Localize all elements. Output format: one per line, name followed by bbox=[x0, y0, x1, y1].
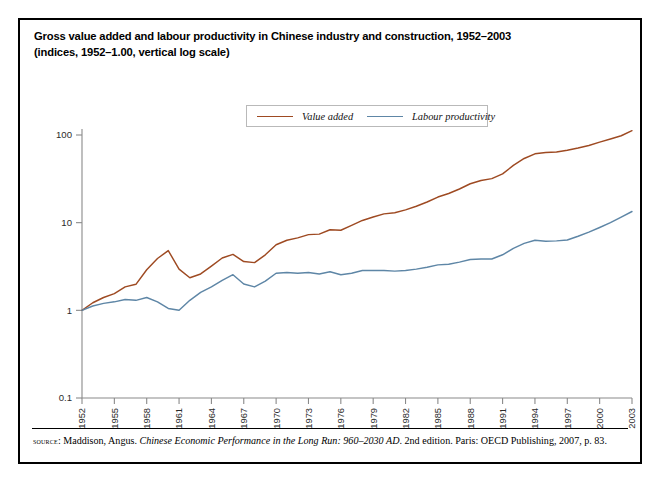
y-tick-label: 100 bbox=[56, 129, 72, 140]
x-tick-label: 1958 bbox=[142, 408, 152, 429]
series-line-labour-productivity bbox=[82, 212, 632, 311]
x-tick-label: 1967 bbox=[239, 408, 249, 429]
y-axis-ticks: 1001010.1 bbox=[56, 129, 82, 403]
x-tick-label: 1979 bbox=[369, 408, 379, 429]
x-tick-label: 1952 bbox=[77, 408, 87, 429]
chart-plot-area: 1001010.1 195219551958196119641967197019… bbox=[20, 20, 644, 466]
axis-spine bbox=[82, 129, 632, 398]
series-line-value-added bbox=[82, 131, 632, 311]
y-tick-label: 1 bbox=[67, 305, 72, 316]
source-work-title: Chinese Economic Performance in the Long… bbox=[139, 435, 399, 446]
source-note: source: Maddison, Angus. Chinese Economi… bbox=[33, 434, 625, 448]
y-tick-label: 10 bbox=[61, 217, 72, 228]
x-tick-label: 2003 bbox=[627, 408, 637, 429]
x-tick-label: 1991 bbox=[498, 408, 508, 429]
x-tick-label: 1994 bbox=[530, 408, 540, 429]
x-tick-label: 1961 bbox=[174, 408, 184, 429]
x-axis-ticks: 1952195519581961196419671970197319761979… bbox=[77, 398, 637, 429]
x-tick-label: 1988 bbox=[466, 408, 476, 429]
source-divider bbox=[32, 428, 628, 429]
x-tick-label: 1982 bbox=[401, 408, 411, 429]
x-tick-label: 2000 bbox=[595, 408, 605, 429]
line-chart-svg: 1001010.1 195219551958196119641967197019… bbox=[20, 20, 644, 466]
x-tick-label: 1973 bbox=[304, 408, 314, 429]
chart-series-group bbox=[82, 131, 632, 311]
x-tick-label: 1997 bbox=[563, 408, 573, 429]
source-kicker: source bbox=[33, 436, 58, 446]
figure-frame: Gross value added and labour productivit… bbox=[18, 18, 642, 464]
x-tick-label: 1964 bbox=[207, 408, 217, 429]
chart-axes bbox=[82, 129, 632, 398]
x-tick-label: 1970 bbox=[272, 408, 282, 429]
y-tick-label: 0.1 bbox=[59, 392, 72, 403]
x-tick-label: 1985 bbox=[433, 408, 443, 429]
x-tick-label: 1955 bbox=[110, 408, 120, 429]
x-tick-label: 1976 bbox=[336, 408, 346, 429]
source-text-after-title: . 2nd edition. Paris: OECD Publishing, 2… bbox=[399, 435, 607, 446]
source-text-before-title: : Maddison, Angus. bbox=[58, 435, 140, 446]
